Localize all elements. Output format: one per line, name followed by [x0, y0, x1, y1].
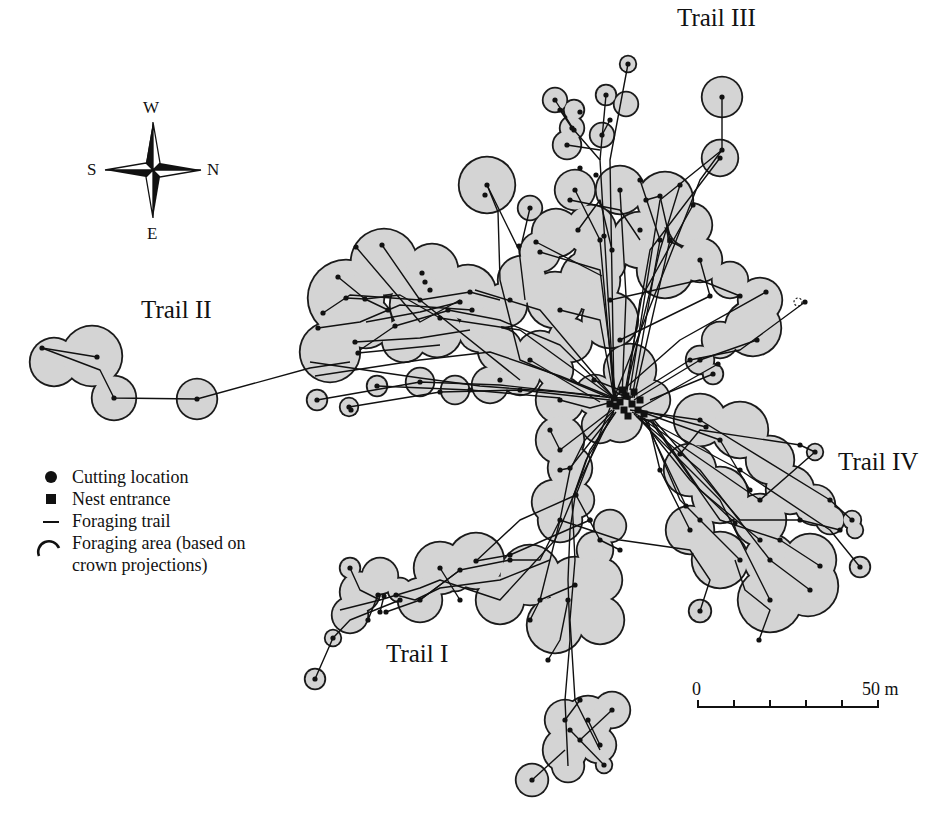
cutting-location [697, 517, 702, 522]
cutting-location [569, 125, 574, 130]
cutting-location [537, 249, 542, 254]
cutting-location [837, 527, 842, 532]
cutting-location [697, 417, 702, 422]
cutting-location [567, 727, 572, 732]
cutting-location [557, 467, 562, 472]
foraging-area [615, 93, 638, 116]
cutting-location [697, 257, 702, 262]
foraging-area [528, 598, 583, 653]
foraging-map [0, 0, 950, 818]
cutting-location [625, 61, 630, 66]
cutting-location [467, 289, 472, 294]
cutting-location [362, 296, 367, 301]
cutting-location [565, 597, 570, 602]
cutting-location [348, 407, 353, 412]
scale-end-label: 50 m [862, 679, 899, 700]
cutting-location [375, 592, 380, 597]
cutting-location [609, 247, 614, 252]
nest-entrance [623, 393, 630, 400]
cutting-location [754, 337, 759, 342]
trail-3-label: Trail III [677, 4, 756, 32]
cutting-location [393, 592, 398, 597]
cutting-location [335, 274, 340, 279]
cutting-location [767, 557, 772, 562]
nest-entrance [631, 389, 638, 396]
cutting-location [715, 361, 720, 366]
cutting-location [343, 295, 348, 300]
cutting-location [657, 467, 662, 472]
cutting-location [807, 587, 812, 592]
cutting-location [347, 565, 352, 570]
cutting-location [314, 397, 319, 402]
cutting-location [732, 520, 737, 525]
cutting-location [374, 383, 379, 388]
cutting-location [417, 297, 422, 302]
cutting-location [802, 299, 807, 304]
cutting-location [111, 395, 116, 400]
cutting-location [315, 325, 320, 330]
cutting-location [577, 737, 582, 742]
cutting-location [422, 279, 427, 284]
cutting-location [365, 617, 370, 622]
cutting-location [797, 442, 802, 447]
cutting-location [437, 389, 442, 394]
cutting-location [617, 187, 622, 192]
cutting-location [703, 424, 708, 429]
nest-entrance [637, 397, 644, 404]
cutting-location [756, 637, 761, 642]
cutting-location [385, 307, 390, 312]
cutting-location [355, 350, 360, 355]
trail-2-label: Trail II [141, 296, 212, 324]
cutting-location [473, 558, 478, 563]
cutting-location [417, 379, 422, 384]
legend-item-foraging-trail: Foraging trail [40, 510, 245, 532]
cutting-location [484, 182, 489, 187]
cutting-location [527, 205, 532, 210]
cutting-location [516, 243, 521, 248]
cutting-location [577, 109, 582, 114]
legend-item-foraging-area: Foraging area (based on [40, 532, 245, 554]
cutting-location [567, 197, 572, 202]
cutting-location [564, 142, 569, 147]
cutting-location [533, 239, 538, 244]
cutting-location [437, 315, 442, 320]
nest-entrance [629, 401, 636, 408]
cutting-location [737, 557, 742, 562]
cutting-location [330, 635, 335, 640]
cutting-location [767, 597, 772, 602]
compass-north-label: N [207, 160, 219, 180]
compass-rose-icon [105, 122, 201, 218]
cutting-location [379, 242, 384, 247]
cutting-location [677, 182, 682, 187]
cutting-location [392, 323, 397, 328]
cutting-location [643, 197, 648, 202]
cutting-location [469, 307, 474, 312]
cutting-location [445, 307, 450, 312]
cutting-location [683, 503, 688, 508]
cutting-location [419, 270, 424, 275]
nest-entrance [619, 387, 626, 394]
cutting-location [507, 557, 512, 562]
cutting-location [697, 608, 702, 613]
cutting-location [529, 777, 534, 782]
cutting-location [719, 147, 724, 152]
cutting-location [437, 565, 442, 570]
cutting-location [552, 97, 557, 102]
cutting-location [757, 497, 762, 502]
cutting-location [585, 717, 590, 722]
cutting-location [777, 537, 782, 542]
cutting-location [717, 437, 722, 442]
cutting-location [557, 447, 562, 452]
cutting-location [527, 617, 532, 622]
scale-bar [698, 700, 878, 708]
cutting-location [320, 310, 325, 315]
nest-entrance [613, 403, 620, 410]
legend-item-foraging-area-continuation: crown projections) [40, 554, 245, 576]
cutting-location [397, 597, 402, 602]
cutting-location [857, 564, 862, 569]
cutting-location [607, 117, 612, 122]
cutting-location [482, 192, 487, 197]
cutting-location [601, 762, 606, 767]
cutting-location [849, 517, 854, 522]
cutting-location [603, 92, 608, 97]
